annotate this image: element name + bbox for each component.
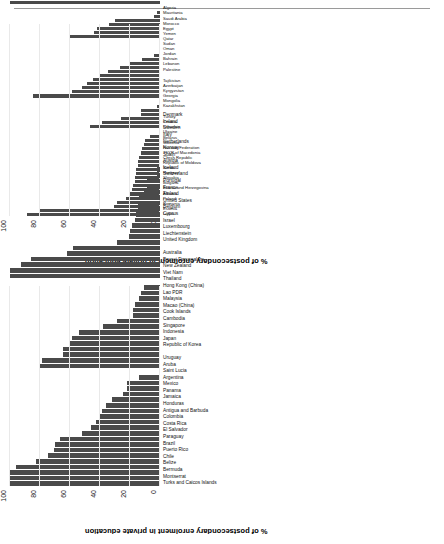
bar-column[interactable] — [10, 336, 160, 341]
bar-column[interactable] — [10, 156, 160, 159]
bar-column[interactable] — [10, 442, 160, 447]
bar — [157, 11, 160, 14]
bar-column[interactable] — [10, 352, 160, 357]
bar-column[interactable] — [10, 291, 160, 296]
bar-column[interactable] — [10, 403, 160, 408]
bar-column[interactable] — [10, 173, 160, 178]
bar — [79, 330, 160, 335]
bar-column[interactable] — [10, 381, 160, 386]
bar-column[interactable] — [10, 201, 160, 206]
bar-column[interactable] — [10, 35, 160, 38]
bar-column[interactable] — [10, 58, 160, 61]
bar-column[interactable] — [10, 302, 160, 307]
bar-column[interactable] — [10, 375, 160, 380]
bar-column[interactable] — [10, 296, 160, 301]
bar-column[interactable] — [10, 1, 160, 4]
bar-column[interactable] — [10, 143, 160, 146]
bar-column[interactable] — [10, 117, 160, 120]
category-label: Belize — [163, 461, 176, 466]
bar-column[interactable] — [10, 246, 160, 251]
bar-column[interactable] — [10, 470, 160, 475]
bar-column[interactable] — [10, 481, 160, 486]
bar-column[interactable] — [10, 167, 160, 172]
bar-column[interactable] — [10, 86, 160, 89]
bar-column[interactable] — [10, 313, 160, 318]
bar-column[interactable] — [10, 212, 160, 217]
bar-column[interactable] — [10, 234, 160, 239]
bar-column[interactable] — [10, 476, 160, 481]
bar-column[interactable] — [10, 330, 160, 335]
bar-column[interactable] — [10, 274, 160, 279]
bar-group — [10, 11, 160, 39]
bar-column[interactable] — [10, 15, 160, 18]
bar-column[interactable] — [10, 113, 160, 116]
bar-column[interactable] — [10, 437, 160, 442]
bar-column[interactable] — [10, 364, 160, 369]
bar-column[interactable] — [10, 257, 160, 262]
bar — [93, 78, 161, 81]
bar-column[interactable] — [10, 285, 160, 290]
bar-column[interactable] — [10, 184, 160, 189]
category-label: Finland — [163, 192, 179, 197]
bar-column[interactable] — [10, 358, 160, 363]
bar-column[interactable] — [10, 251, 160, 256]
bar-column[interactable] — [10, 308, 160, 313]
bar-column[interactable] — [10, 319, 160, 324]
bar-column[interactable] — [10, 268, 160, 273]
bar-column[interactable] — [10, 262, 160, 267]
bar-column[interactable] — [10, 70, 160, 73]
bar-column[interactable] — [10, 11, 160, 14]
bar-column[interactable] — [10, 223, 160, 228]
bar-column[interactable] — [10, 135, 160, 138]
bar-column[interactable] — [10, 152, 160, 155]
bar-column[interactable] — [10, 19, 160, 22]
bar-column[interactable] — [10, 240, 160, 245]
bar-column[interactable] — [10, 195, 160, 200]
bar-column[interactable] — [10, 27, 160, 30]
category-label: Ireland — [163, 119, 178, 124]
category-label-slot: Thailand — [162, 277, 257, 283]
bar-column[interactable] — [10, 179, 160, 184]
bar-column[interactable] — [10, 74, 160, 77]
bar-column[interactable] — [10, 392, 160, 397]
bar-column[interactable] — [10, 431, 160, 436]
bar-column[interactable] — [10, 121, 160, 124]
category-label-slot: Hong Kong (China) — [162, 283, 257, 289]
bar-column[interactable] — [10, 82, 160, 85]
bar-column[interactable] — [10, 425, 160, 430]
bar-column[interactable] — [10, 459, 160, 464]
bar-column[interactable] — [10, 465, 160, 470]
bar-column[interactable] — [10, 139, 160, 142]
bar-column[interactable] — [10, 341, 160, 346]
bar-column[interactable] — [10, 66, 160, 69]
bar-column[interactable] — [10, 78, 160, 81]
bar-column[interactable] — [10, 49, 160, 52]
bar-column[interactable] — [10, 23, 160, 26]
bar-column[interactable] — [10, 386, 160, 391]
bar-column[interactable] — [10, 409, 160, 414]
bar-column[interactable] — [10, 347, 160, 352]
bar-column[interactable] — [10, 398, 160, 403]
bar — [138, 160, 161, 163]
bar-column[interactable] — [10, 105, 160, 108]
bar-column[interactable] — [10, 45, 160, 48]
bar-column[interactable] — [10, 324, 160, 329]
bar-column[interactable] — [10, 147, 160, 150]
category-label-slot: Australia — [162, 250, 257, 256]
bar-column[interactable] — [10, 62, 160, 65]
bar-column[interactable] — [10, 109, 160, 112]
bar-column[interactable] — [10, 420, 160, 425]
bar-column[interactable] — [10, 229, 160, 234]
bar-column[interactable] — [10, 31, 160, 34]
bar-column[interactable] — [10, 54, 160, 57]
bar-column[interactable] — [10, 218, 160, 223]
bar-column[interactable] — [10, 90, 160, 93]
bar-column[interactable] — [10, 414, 160, 419]
bar-column[interactable] — [10, 448, 160, 453]
bar-column[interactable] — [10, 207, 160, 212]
bar-column[interactable] — [10, 453, 160, 458]
bar-column[interactable] — [10, 125, 160, 128]
bar-column[interactable] — [10, 94, 160, 97]
bar-column[interactable] — [10, 190, 160, 195]
bar-column[interactable] — [10, 160, 160, 163]
